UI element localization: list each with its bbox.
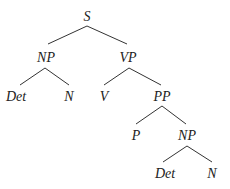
node-p: P xyxy=(131,128,141,143)
edge-s-vp xyxy=(87,26,127,44)
node-s: S xyxy=(84,9,91,24)
edge-s-np xyxy=(48,26,87,44)
edge-vp-pp xyxy=(129,68,161,85)
edge-pp-p xyxy=(136,106,162,124)
node-det: Det xyxy=(5,89,27,104)
node-np: NP xyxy=(36,50,55,65)
node-np-inner: NP xyxy=(177,128,196,143)
node-v: V xyxy=(100,89,110,104)
edge-np2-n xyxy=(187,146,212,162)
node-det-inner: Det xyxy=(154,166,176,181)
edge-pp-np xyxy=(162,106,186,124)
node-n: N xyxy=(63,89,74,104)
edge-np-n xyxy=(45,68,69,85)
edge-vp-v xyxy=(104,68,129,85)
edge-np-det xyxy=(20,68,45,85)
node-n-inner: N xyxy=(206,166,217,181)
node-pp: PP xyxy=(152,89,171,104)
syntax-tree: S NP VP Det N V PP P NP Det N xyxy=(0,0,230,189)
edge-np2-det xyxy=(163,146,187,162)
node-vp: VP xyxy=(119,50,137,65)
